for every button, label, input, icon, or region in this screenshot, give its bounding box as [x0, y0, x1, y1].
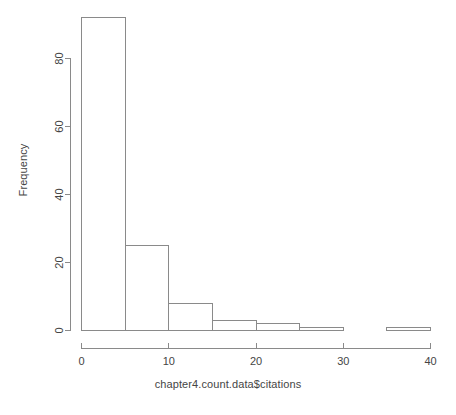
- chart-canvas: 020406080 010203040: [0, 0, 456, 415]
- bars-group: [82, 18, 431, 331]
- x-axis-label: chapter4.count.data$citations: [0, 378, 456, 390]
- y-tick-labels: 020406080: [53, 52, 65, 333]
- histogram-bar: [300, 327, 344, 330]
- y-tick-label: 60: [53, 120, 65, 132]
- y-tick-label: 80: [53, 52, 65, 64]
- histogram-bar: [169, 303, 213, 330]
- y-tick-label: 20: [53, 256, 65, 268]
- histogram-bar: [125, 246, 169, 331]
- y-tick-label: 0: [53, 327, 65, 333]
- histogram-bar: [387, 327, 431, 330]
- x-tick-label: 0: [78, 355, 84, 367]
- y-axis-label-container: Frequency: [8, 0, 38, 340]
- y-tick-label: 40: [53, 188, 65, 200]
- histogram-bar: [212, 320, 256, 330]
- y-axis-label: Frequency: [17, 144, 29, 197]
- y-axis: [65, 59, 71, 331]
- x-tick-labels: 010203040: [78, 355, 436, 367]
- x-tick-label: 20: [250, 355, 262, 367]
- x-tick-label: 30: [337, 355, 349, 367]
- x-tick-label: 40: [424, 355, 436, 367]
- histogram-bar: [256, 324, 300, 331]
- histogram-bar: [82, 18, 126, 331]
- x-tick-label: 10: [163, 355, 175, 367]
- histogram-figure: 020406080 010203040 Frequency chapter4.c…: [0, 0, 456, 415]
- x-axis: [82, 343, 431, 349]
